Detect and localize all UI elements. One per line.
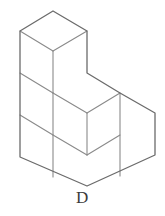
figure-container: D bbox=[0, 0, 165, 216]
figure-label: D bbox=[76, 188, 89, 207]
figure-label-layer: D bbox=[0, 188, 165, 207]
isometric-cube-diagram bbox=[0, 0, 165, 216]
